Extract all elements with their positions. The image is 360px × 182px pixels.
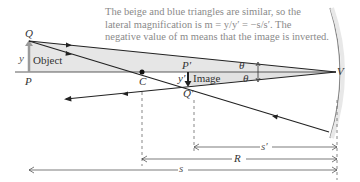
label-theta-bottom: θ (243, 72, 248, 84)
label-s: s (179, 162, 183, 174)
label-image: Image (193, 72, 220, 84)
ray-through-center (29, 41, 329, 132)
explanation-caption: The beige and blue triangles are similar… (105, 6, 340, 44)
label-c: C (139, 75, 146, 87)
concave-mirror-diagram: The beige and blue triangles are similar… (0, 0, 360, 182)
label-y: y (19, 52, 24, 64)
label-v: V (337, 65, 344, 77)
caption-line-1: The beige and blue triangles are similar… (105, 6, 340, 19)
label-q-prime: Q′ (183, 87, 193, 99)
label-object: Object (33, 54, 62, 66)
label-p-prime: P′ (182, 59, 191, 71)
caption-line-3: negative value of m means that the image… (105, 31, 340, 44)
label-theta-top: θ (239, 59, 244, 71)
label-p: P (25, 75, 32, 87)
center-of-curvature-dot (140, 70, 145, 75)
label-r: R (234, 152, 241, 164)
label-s-prime: s′ (261, 140, 268, 152)
label-y-prime: y′ (178, 72, 185, 84)
caption-line-2: lateral magnification is m = y/y′ = −s/s… (105, 19, 340, 32)
label-q: Q (25, 27, 33, 39)
